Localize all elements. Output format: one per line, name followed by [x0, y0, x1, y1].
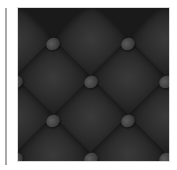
vertical-divider: [5, 8, 7, 165]
tufted-leather-image: [17, 7, 170, 162]
